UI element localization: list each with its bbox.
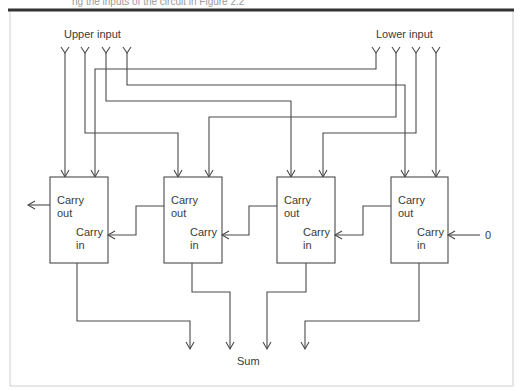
svg-text:in: in	[303, 239, 312, 251]
upper-input-terminals	[61, 47, 131, 53]
carry-out-label: Carry	[171, 194, 198, 206]
terminal-icon	[372, 47, 380, 53]
svg-text:out: out	[171, 207, 186, 219]
carry-in-label: Carry	[303, 226, 330, 238]
full-adder-3: Carry out Carry in	[277, 177, 335, 263]
carry-in-label: Carry	[76, 226, 103, 238]
full-adder-1: Carry out Carry in	[50, 177, 108, 263]
svg-text:in: in	[417, 239, 426, 251]
terminal-icon	[432, 47, 440, 53]
input-wires	[65, 53, 436, 177]
sum-label: Sum	[237, 355, 260, 367]
upper-input-label: Upper input	[64, 28, 121, 40]
terminal-icon	[81, 47, 89, 53]
lower-input-terminals	[372, 47, 440, 53]
svg-text:in: in	[76, 239, 85, 251]
terminal-icon	[123, 47, 131, 53]
terminal-icon	[102, 47, 110, 53]
full-adder-2: Carry out Carry in	[164, 177, 222, 263]
carry-in-zero-label: 0	[485, 229, 491, 241]
terminal-icon	[61, 47, 69, 53]
adder-circuit-diagram: ng the inputs of the circuit in Figure 2…	[0, 0, 521, 391]
carry-out-label: Carry	[398, 194, 425, 206]
carry-in-label: Carry	[190, 226, 217, 238]
carry-out-label: Carry	[57, 194, 84, 206]
figure-caption: ng the inputs of the circuit in Figure 2…	[72, 0, 245, 7]
svg-text:out: out	[398, 207, 413, 219]
carry-in-label: Carry	[417, 226, 444, 238]
terminal-icon	[392, 47, 400, 53]
input-arrowheads	[61, 170, 440, 177]
svg-text:out: out	[57, 207, 72, 219]
lower-input-label: Lower input	[376, 28, 433, 40]
svg-text:out: out	[284, 207, 299, 219]
svg-text:in: in	[190, 239, 199, 251]
terminal-icon	[412, 47, 420, 53]
full-adder-4: Carry out Carry in	[391, 177, 448, 263]
sum-output-wires	[77, 263, 419, 349]
carry-out-label: Carry	[284, 194, 311, 206]
